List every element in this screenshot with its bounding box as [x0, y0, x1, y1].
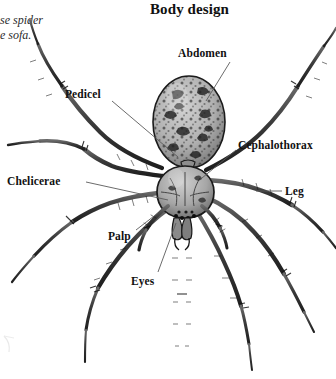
- leg-right-3: [204, 196, 314, 332]
- label-cephalothorax: Cephalothorax: [238, 139, 313, 151]
- label-pedicel: Pedicel: [65, 88, 101, 100]
- abdomen-shape: [153, 76, 225, 168]
- leader-eyes: [158, 223, 176, 272]
- label-abdomen: Abdomen: [178, 47, 227, 59]
- label-leg: Leg: [285, 185, 304, 197]
- label-eyes: Eyes: [131, 275, 154, 287]
- leg-right-2: [207, 180, 336, 248]
- figure-page: se spider e sofa. Body design: [0, 0, 336, 379]
- label-palp: Palp: [108, 230, 131, 242]
- page-smudge: [4, 336, 14, 352]
- label-chelicerae: Chelicerae: [7, 175, 60, 187]
